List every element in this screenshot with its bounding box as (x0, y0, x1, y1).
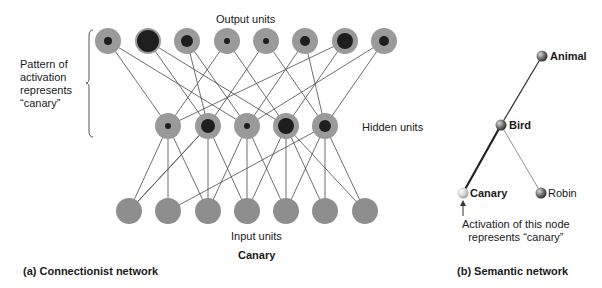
hidden-unit (312, 113, 338, 139)
activation-annotation: Activation of this node represents “cana… (462, 218, 570, 244)
output-unit (371, 28, 397, 54)
arrow-icon (460, 200, 466, 216)
network-units (95, 28, 397, 224)
output-unit (332, 28, 358, 54)
input-unit (273, 198, 299, 224)
input-unit (116, 198, 142, 224)
hidden-unit (195, 113, 221, 139)
output-unit (174, 28, 200, 54)
input-units-label: Input units (231, 230, 282, 242)
output-unit (292, 28, 318, 54)
hidden-units-label: Hidden units (362, 121, 423, 133)
hidden-unit (155, 113, 181, 139)
diagram-canvas (0, 0, 602, 288)
hidden-unit (273, 113, 299, 139)
output-unit (135, 28, 161, 54)
caption-semantic: (b) Semantic network (457, 265, 568, 277)
input-word-label: Canary (238, 249, 275, 261)
node-label-bird: Bird (509, 119, 531, 131)
node-label-canary: Canary (470, 187, 507, 199)
semantic-node-animal (537, 51, 548, 62)
output-unit (253, 28, 279, 54)
semantic-node-bird (496, 120, 507, 131)
output-unit (95, 28, 121, 54)
input-unit (195, 198, 221, 224)
semantic-node-robin (536, 188, 547, 199)
input-unit (312, 198, 338, 224)
input-unit (352, 198, 378, 224)
node-label-robin: Robin (548, 187, 577, 199)
semantic-node-canary (458, 188, 469, 199)
pattern-of-activation-label: Pattern of activation represents “canary… (20, 58, 72, 110)
caption-connectionist: (a) Connectionist network (23, 265, 158, 277)
output-unit (214, 28, 240, 54)
input-unit (155, 198, 181, 224)
output-units-label: Output units (216, 13, 275, 25)
input-unit (234, 198, 260, 224)
pattern-brace (86, 30, 93, 137)
semantic-nodes (458, 51, 548, 199)
hidden-unit (234, 113, 260, 139)
node-label-animal: Animal (550, 50, 587, 62)
